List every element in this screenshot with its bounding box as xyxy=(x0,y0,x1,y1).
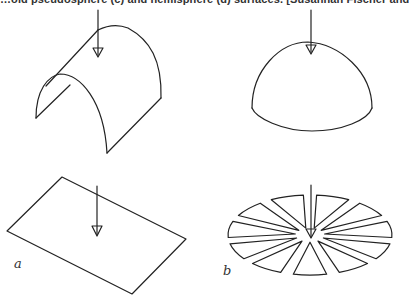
arrow-b-bottom xyxy=(306,185,316,238)
half-cylinder-back-arc xyxy=(98,26,161,98)
panel-label-a: a xyxy=(14,256,22,271)
gore-segment xyxy=(325,221,392,237)
hemisphere-base xyxy=(252,108,372,131)
figure-canvas xyxy=(0,0,409,297)
hemisphere-drawing xyxy=(252,42,372,131)
gore-segment xyxy=(238,203,298,230)
panel-label-b: b xyxy=(223,263,231,278)
gore-segment xyxy=(321,203,381,230)
arrow-b-top xyxy=(306,10,316,54)
arrow-a-bottom xyxy=(92,186,102,236)
half-cylinder-top-edge xyxy=(46,30,98,86)
half-cylinder-right-base-edge xyxy=(107,98,161,153)
gore-segment xyxy=(228,221,295,237)
